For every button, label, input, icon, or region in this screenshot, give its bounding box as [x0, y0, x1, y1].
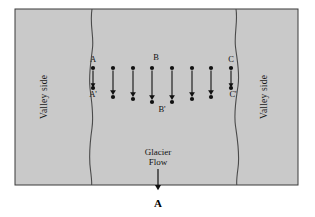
stake-dot-bottom: [209, 95, 213, 99]
figure-canvas: Valley side Valley side A A': [0, 0, 315, 217]
figure-caption-label: A: [154, 197, 162, 209]
stake-dot-top: [131, 66, 135, 70]
stake-dot-top: [150, 66, 154, 70]
glacier-flow-label-line2: Flow: [149, 157, 168, 167]
marker-label-c: C: [228, 54, 234, 64]
marker-label-c-prime: C': [229, 89, 237, 99]
stake-dot-top: [190, 66, 194, 70]
stake-dot-top: [209, 66, 213, 70]
stake-dot-top: [170, 66, 174, 70]
marker-label-a: A: [90, 54, 97, 64]
glacier-flow-label-line1: Glacier: [145, 147, 171, 157]
glacier-flow-figure: Valley side Valley side A A': [0, 0, 315, 217]
stake-dot-top: [111, 66, 115, 70]
stake-dot-bottom: [150, 100, 154, 104]
marker-label-b: B: [153, 52, 159, 62]
stake-dot-top: [229, 66, 233, 70]
marker-label-b-prime: B': [158, 104, 166, 114]
valley-side-label-left: Valley side: [39, 75, 49, 119]
marker-label-a-prime: A': [89, 89, 97, 99]
stake-dot-top: [91, 66, 95, 70]
stake-dot-bottom: [131, 97, 135, 101]
stake-dot-bottom: [170, 100, 174, 104]
stake-dot-bottom: [111, 95, 115, 99]
valley-side-label-right: Valley side: [259, 75, 269, 119]
stake-dot-bottom: [190, 97, 194, 101]
